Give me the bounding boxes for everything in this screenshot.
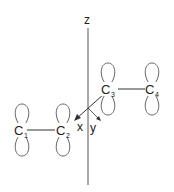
y-axis-label: y <box>90 121 96 135</box>
butadiene-p-orbital-diagram: z x y C 1 C 2 C 3 <box>0 0 174 192</box>
atom-c1-index: 1 <box>24 132 28 139</box>
atom-c1-symbol: C <box>14 123 23 138</box>
atom-c3-symbol: C <box>101 82 110 97</box>
x-axis-label: x <box>77 120 83 134</box>
atom-c4-index: 4 <box>155 91 159 98</box>
x-axis <box>76 94 104 119</box>
atom-c2-index: 2 <box>66 132 70 139</box>
z-axis-label: z <box>84 13 90 27</box>
atom-c4-symbol: C <box>145 82 154 97</box>
atom-c1: C 1 <box>14 123 28 139</box>
atom-c3: C 3 <box>101 82 117 98</box>
atom-c4: C 4 <box>145 82 161 98</box>
atom-c3-index: 3 <box>111 91 115 98</box>
y-axis <box>88 108 99 119</box>
atom-c2: C 2 <box>56 123 70 139</box>
atom-c2-symbol: C <box>56 123 65 138</box>
